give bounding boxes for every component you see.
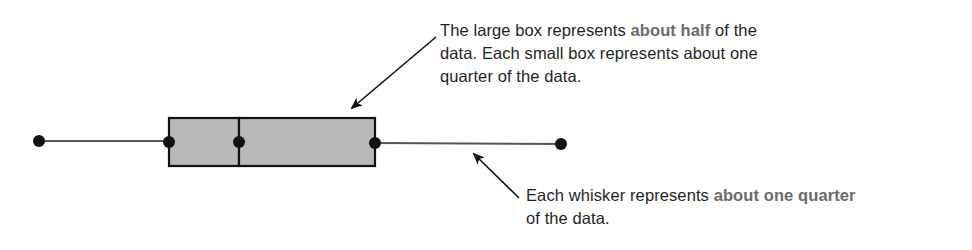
whisker-annotation: Each whisker represents about one quarte… <box>526 184 966 230</box>
box-upper-quarter <box>239 118 375 166</box>
whisker-annotation-emphasis: about one quarter <box>714 186 856 204</box>
whisker-annotation-text-2: of the data. <box>526 209 610 227</box>
box-pointer-arrow <box>352 37 436 108</box>
box-annotation-text-1: The large box represents <box>440 21 631 39</box>
minimum-point <box>33 135 45 147</box>
box-lower-quarter <box>169 118 239 166</box>
lower-quartile-point <box>163 136 175 148</box>
maximum-point <box>555 138 567 150</box>
whisker-pointer-arrow <box>474 154 519 198</box>
box-annotation: The large box represents about half of t… <box>440 19 760 88</box>
right-whisker <box>375 143 561 144</box>
median-point <box>233 136 245 148</box>
whisker-annotation-text-1: Each whisker represents <box>526 186 714 204</box>
box-annotation-emphasis: about half <box>631 21 711 39</box>
upper-quartile-point <box>369 137 381 149</box>
